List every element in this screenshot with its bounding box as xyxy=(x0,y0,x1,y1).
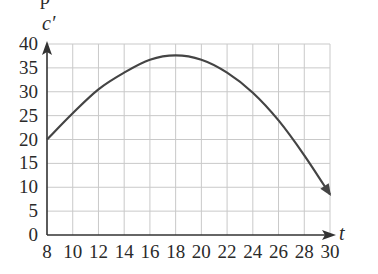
y-axis-label: c′ xyxy=(42,12,56,34)
x-tick-label: 18 xyxy=(166,241,185,262)
x-tick-label: 30 xyxy=(321,241,340,262)
y-tick-label: 0 xyxy=(29,224,39,245)
y-tick-label: 40 xyxy=(19,33,38,54)
x-tick-label: 14 xyxy=(115,241,135,262)
y-tick-label: 25 xyxy=(19,105,38,126)
y-tick-label: 35 xyxy=(19,57,38,78)
x-tick-label: 26 xyxy=(269,241,288,262)
y-tick-labels: 0510152025303540 xyxy=(19,33,38,245)
x-tick-label: 12 xyxy=(89,241,108,262)
y-tick-label: 10 xyxy=(19,176,38,197)
y-tick-label: 15 xyxy=(19,152,38,173)
grid xyxy=(47,44,330,235)
chart: 81012141618202224262830 0510152025303540… xyxy=(0,0,378,274)
y-tick-label: 30 xyxy=(19,81,38,102)
y-tick-label: 20 xyxy=(19,129,38,150)
x-tick-label: 8 xyxy=(42,241,52,262)
y-tick-label: 5 xyxy=(29,200,39,221)
x-tick-label: 20 xyxy=(192,241,211,262)
x-tick-label: 16 xyxy=(140,241,159,262)
x-tick-label: 22 xyxy=(218,241,237,262)
axes xyxy=(42,41,336,240)
x-tick-label: 24 xyxy=(243,241,263,262)
curve-end-arrow-icon xyxy=(320,183,331,196)
x-axis-label: t xyxy=(339,222,345,244)
data-curve xyxy=(47,55,330,194)
x-tick-labels: 81012141618202224262830 xyxy=(42,241,339,262)
x-tick-label: 10 xyxy=(63,241,82,262)
header-fragment: p xyxy=(40,0,50,9)
x-tick-label: 28 xyxy=(295,241,314,262)
